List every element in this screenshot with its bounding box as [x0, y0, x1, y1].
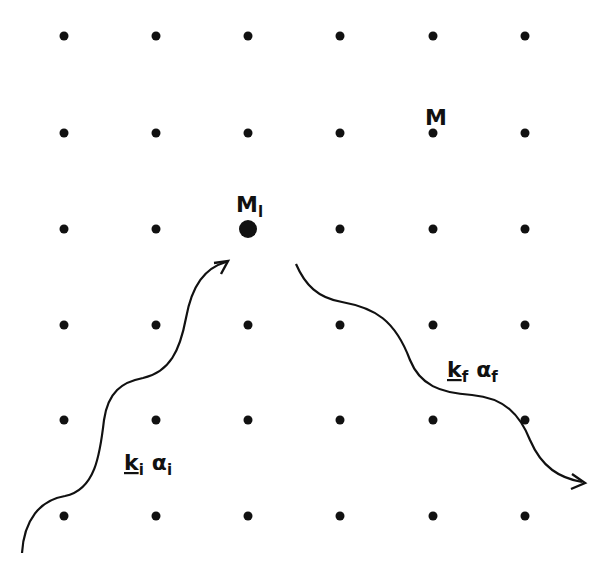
lattice-site-atom [336, 512, 345, 521]
lattice-site-atom [521, 225, 530, 234]
outgoing-wave-label: kfαf [447, 357, 498, 386]
lattice-site-atom [152, 512, 161, 521]
diagram-canvas: M Ml kiαi kfαf [0, 0, 609, 577]
lattice-grid [60, 32, 530, 521]
lattice-site-atom [244, 32, 253, 41]
lattice-site-atom [429, 512, 438, 521]
lattice-site-atom [244, 512, 253, 521]
scattering-diagram: M Ml kiαi kfαf [0, 0, 609, 577]
lattice-site-atom [244, 321, 253, 330]
incident-wave-curve [22, 262, 226, 553]
lattice-site-atom [336, 129, 345, 138]
lattice-site-atom [60, 512, 69, 521]
lattice-site-atom [429, 225, 438, 234]
lattice-site-atom [336, 225, 345, 234]
lattice-site-atom [152, 321, 161, 330]
scattering-site-label: Ml [236, 192, 263, 221]
lattice-site-atom [60, 321, 69, 330]
lattice-site-atom [521, 129, 530, 138]
lattice-site-atom [521, 321, 530, 330]
lattice-site-atom [429, 416, 438, 425]
incident-wave-arrowhead-icon [214, 261, 228, 274]
lattice-site-atom [244, 416, 253, 425]
incident-polarization: α [152, 450, 167, 475]
incident-polarization-subscript: i [167, 461, 172, 479]
lattice-site-atom [152, 129, 161, 138]
incident-wavevector: k [124, 450, 140, 475]
outgoing-polarization: α [476, 357, 491, 382]
lattice-site-atom [429, 32, 438, 41]
lattice-site-atom [336, 32, 345, 41]
lattice-site-atom [60, 32, 69, 41]
lattice-site-atom [152, 32, 161, 41]
outgoing-wavevector-subscript: f [462, 368, 469, 386]
lattice-site-atom [336, 321, 345, 330]
lattice-site-atom [60, 225, 69, 234]
lattice-site-atom [60, 129, 69, 138]
scattering-site-main: M [236, 192, 258, 217]
outgoing-wavevector: k [447, 357, 463, 382]
generic-site-label: M [425, 105, 447, 130]
outgoing-wave-curve [296, 264, 582, 482]
incident-wave-label: kiαi [124, 450, 172, 479]
scattering-site-atom [239, 220, 257, 238]
lattice-site-atom [152, 225, 161, 234]
lattice-site-atom [244, 129, 253, 138]
scattering-site-subscript: l [258, 203, 263, 221]
lattice-site-atom [152, 416, 161, 425]
incident-wavevector-subscript: i [139, 461, 144, 479]
lattice-site-atom [429, 321, 438, 330]
lattice-site-atom [521, 512, 530, 521]
lattice-site-atom [521, 32, 530, 41]
lattice-site-atom [60, 416, 69, 425]
outgoing-polarization-subscript: f [491, 368, 498, 386]
lattice-site-atom [336, 416, 345, 425]
